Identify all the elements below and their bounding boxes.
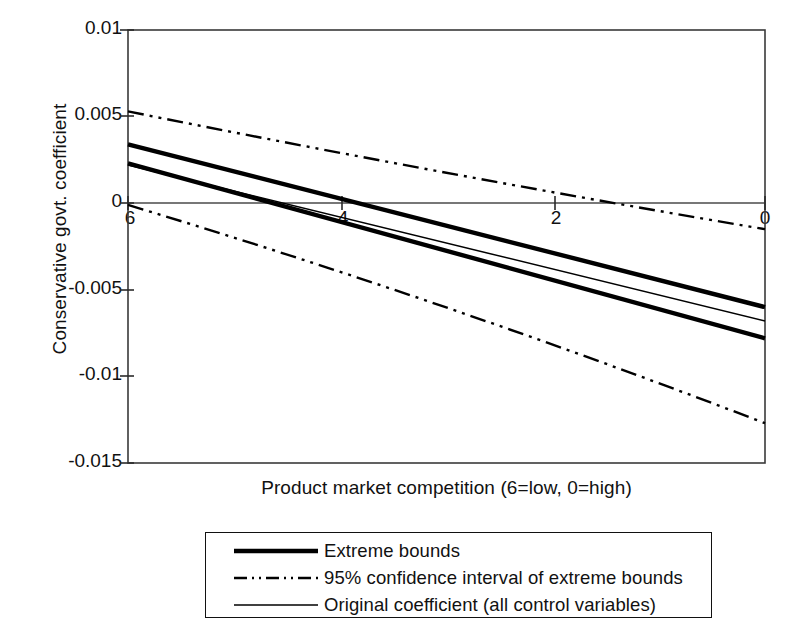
- legend-label-original-coefficient: Original coefficient (all control variab…: [324, 594, 656, 616]
- series-line-2: [128, 165, 765, 321]
- legend-key-confidence-interval: [228, 565, 324, 591]
- legend-label-extreme-bounds: Extreme bounds: [324, 540, 460, 562]
- chart-figure: Conservative govt. coefficient Product m…: [0, 0, 794, 644]
- legend-key-original-coefficient: [228, 592, 324, 618]
- series-line-1: [128, 163, 765, 338]
- series-line-0: [128, 144, 765, 307]
- y-axis-ticks: [120, 30, 134, 463]
- chart-legend: Extreme bounds 95% confidence interval o…: [205, 532, 712, 618]
- legend-key-extreme-bounds: [228, 538, 324, 564]
- plot-frame: [128, 30, 765, 463]
- data-series-layer: [128, 111, 765, 423]
- legend-label-confidence-interval: 95% confidence interval of extreme bound…: [324, 567, 683, 589]
